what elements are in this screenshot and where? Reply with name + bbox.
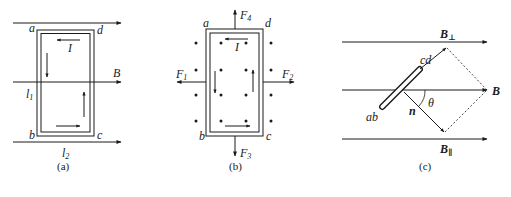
caption-b: (b) [229,160,242,173]
field-label-b-parallel: B∥ [439,142,452,157]
angle-label-theta: θ [428,96,434,110]
corner-label-a: a [203,16,209,30]
current-label: I [234,40,240,54]
corner-label-b: b [199,129,205,143]
force-label-f2: F2 [281,67,293,82]
normal-label-n: n [409,104,416,118]
panel-a: a d b c I B l1 l2 (a) [13,21,121,173]
current-label: I [67,41,73,55]
angle-arc [419,90,425,106]
corner-label-d: d [97,23,104,37]
force-label-f3: F3 [239,146,251,161]
coil-outer [37,30,94,136]
force-label-f4: F4 [239,8,251,23]
field-label-b: B [113,66,121,80]
force-label-f1: F1 [175,67,187,82]
coil-end-label-ab: ab [366,110,378,124]
line-label-l1: l1 [26,87,33,102]
caption-c: (c) [419,160,432,173]
line-label-l2: l2 [62,146,69,161]
field-label-b: B [491,84,500,98]
corner-label-b: b [29,128,35,142]
corner-label-c: c [97,128,103,142]
corner-label-c: c [266,129,272,143]
field-label-b-perp: B⊥ [439,27,456,42]
coil-inner [41,34,90,133]
panel-c: B⊥ B B∥ cd ab n θ (c) [342,27,500,173]
corner-label-d: d [265,16,272,30]
coil-edge [379,66,424,111]
corner-label-a: a [29,21,35,35]
panel-b: F4 F3 F1 F2 a d b c I (b) [175,8,294,173]
dashed-projection-bottom [445,90,487,132]
caption-a: (a) [57,160,70,173]
coil-end-label-cd: cd [420,53,432,67]
dashed-projection-top [447,48,487,90]
physics-diagram: a d b c I B l1 l2 (a) F4 F3 F1 F2 a [0,0,511,197]
